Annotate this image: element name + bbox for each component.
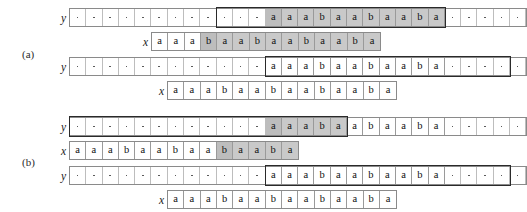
sequence-cell: a bbox=[282, 9, 298, 26]
sequence-cell-blank bbox=[461, 167, 477, 184]
sequence-cell: b bbox=[314, 167, 330, 184]
sequence-row: yaaabaabaaba bbox=[0, 166, 399, 187]
sequence-cell-blank bbox=[461, 9, 477, 26]
sequence-cell-blank bbox=[119, 167, 135, 184]
sequence-cell: b bbox=[217, 82, 233, 99]
sequence-cell: b bbox=[364, 82, 380, 99]
sequence-cell-blank bbox=[200, 118, 216, 135]
sequence-cell: a bbox=[266, 9, 282, 26]
sequence-strip: aaabaabaabaaba bbox=[69, 141, 299, 160]
sequence-cell: a bbox=[396, 167, 412, 184]
sequence-cell: b bbox=[364, 191, 380, 208]
sequence-cell-blank bbox=[86, 167, 102, 184]
sequence-cell-blank bbox=[445, 167, 461, 184]
sequence-cell-blank bbox=[151, 58, 167, 75]
sequence-cell: a bbox=[282, 167, 298, 184]
sequence-strip: aaabaabaabaaba bbox=[167, 190, 397, 209]
sequence-cell-blank bbox=[233, 118, 249, 135]
sequence-cell: b bbox=[412, 58, 428, 75]
sequence-cell-blank bbox=[151, 167, 167, 184]
sequence-cell: b bbox=[314, 9, 330, 26]
sequence-cell-blank bbox=[70, 167, 86, 184]
sequence-cell-blank bbox=[477, 118, 493, 135]
sequence-cell: a bbox=[151, 142, 167, 159]
sequence-cell: a bbox=[380, 58, 396, 75]
sequence-row: xaaabaabaabaaba bbox=[0, 32, 399, 53]
sequence-cell: a bbox=[347, 167, 363, 184]
row-variable-label-y: y bbox=[52, 121, 66, 133]
sequence-cell-blank bbox=[184, 118, 200, 135]
sequence-cell: b bbox=[217, 191, 233, 208]
sequence-cell-blank bbox=[445, 58, 461, 75]
sequence-cell-blank bbox=[477, 58, 493, 75]
sequence-cell-blank bbox=[233, 167, 249, 184]
sequence-cell: a bbox=[396, 9, 412, 26]
sequence-cell-blank bbox=[249, 9, 265, 26]
sequence-cell-blank bbox=[103, 167, 119, 184]
sequence-cell: b bbox=[363, 9, 379, 26]
sequence-cell: a bbox=[201, 82, 217, 99]
sequence-cell-blank bbox=[135, 58, 151, 75]
row-variable-label-y: y bbox=[52, 170, 66, 182]
sequence-cell: b bbox=[119, 142, 135, 159]
sequence-cell-blank bbox=[151, 9, 167, 26]
sequence-row: xaaabaabaabaaba bbox=[0, 141, 399, 162]
sequence-cell: a bbox=[249, 191, 265, 208]
sequence-cell: b bbox=[299, 33, 315, 50]
sequence-cell-blank bbox=[184, 58, 200, 75]
sequence-cell: a bbox=[168, 82, 184, 99]
sequence-cell: a bbox=[168, 191, 184, 208]
sequence-cell: b bbox=[363, 167, 379, 184]
sequence-cell: a bbox=[331, 118, 347, 135]
sequence-cell: b bbox=[168, 142, 184, 159]
sequence-cell-blank bbox=[135, 118, 151, 135]
sequence-cell: a bbox=[347, 82, 363, 99]
sequence-strip: aaabaabaaba bbox=[69, 8, 527, 27]
sequence-cell: a bbox=[380, 118, 396, 135]
sequence-cell: a bbox=[233, 33, 249, 50]
sequence-cell-blank bbox=[168, 167, 184, 184]
sequence-cell: a bbox=[282, 58, 298, 75]
sequence-cell: b bbox=[363, 118, 379, 135]
sequence-cell: a bbox=[233, 142, 249, 159]
sequence-cell: a bbox=[282, 82, 298, 99]
sequence-cell-blank bbox=[477, 167, 493, 184]
sequence-cell: a bbox=[233, 82, 249, 99]
sequence-cell-blank bbox=[461, 58, 477, 75]
sequence-cell: b bbox=[250, 33, 266, 50]
sequence-cell-blank bbox=[119, 58, 135, 75]
sequence-cell: a bbox=[233, 191, 249, 208]
sequence-cell: b bbox=[315, 191, 331, 208]
sequence-cell: b bbox=[315, 82, 331, 99]
sequence-cell-blank bbox=[119, 118, 135, 135]
sequence-cell: b bbox=[314, 58, 330, 75]
sequence-cell: a bbox=[184, 191, 200, 208]
sequence-cell-blank bbox=[200, 9, 216, 26]
sequence-cell: a bbox=[70, 142, 86, 159]
sequence-cell: a bbox=[86, 142, 102, 159]
sequence-cell: b bbox=[348, 33, 364, 50]
sequence-cell: b bbox=[412, 118, 428, 135]
sequence-cell: a bbox=[429, 118, 445, 135]
sequence-cell-blank bbox=[445, 118, 461, 135]
sequence-cell-blank bbox=[168, 118, 184, 135]
row-variable-label-x: x bbox=[134, 36, 148, 48]
sequence-cell: a bbox=[380, 191, 396, 208]
sequence-row: xaaabaabaabaaba bbox=[0, 190, 399, 211]
sequence-cell: a bbox=[282, 33, 298, 50]
sequence-cell: a bbox=[331, 58, 347, 75]
sequence-cell: a bbox=[184, 142, 200, 159]
row-variable-label-x: x bbox=[52, 145, 66, 157]
sequence-cell: b bbox=[266, 191, 282, 208]
row-variable-label-x: x bbox=[150, 85, 164, 97]
sequence-cell-blank bbox=[217, 9, 233, 26]
sequence-cell: a bbox=[380, 167, 396, 184]
sequence-cell: a bbox=[168, 33, 184, 50]
sequence-cell-blank bbox=[168, 58, 184, 75]
sequence-strip: aaabaabaaba bbox=[69, 166, 527, 185]
sequence-cell: b bbox=[314, 118, 330, 135]
sequence-cell-blank bbox=[103, 118, 119, 135]
sequence-cell: a bbox=[282, 118, 298, 135]
sequence-cell-blank bbox=[494, 9, 510, 26]
sequence-cell-blank bbox=[135, 9, 151, 26]
